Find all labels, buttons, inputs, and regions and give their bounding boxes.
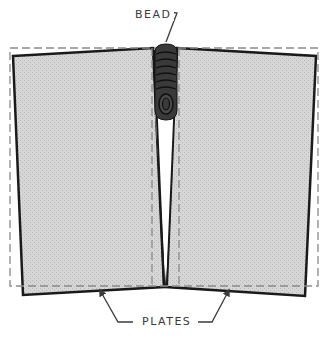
plates-leader-left xyxy=(101,292,133,322)
plates-label: PLATES xyxy=(140,316,193,328)
plates-leader-right xyxy=(198,292,228,322)
weld-diagram: BEAD PLATES xyxy=(0,0,330,340)
weld-bead xyxy=(155,44,177,120)
right-plate xyxy=(166,48,316,296)
bead-label: BEAD xyxy=(133,9,174,21)
left-plate xyxy=(13,48,164,295)
diagram-canvas xyxy=(0,0,330,340)
